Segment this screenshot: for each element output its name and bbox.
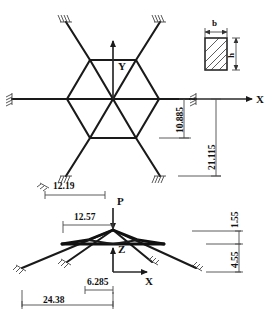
dimension-10885: 10.885 bbox=[159, 99, 191, 138]
plan-support-symbol-top-right bbox=[152, 15, 166, 22]
x-axis-label: X bbox=[256, 93, 264, 105]
elevation-view-group: P Z X 12.57 6.285 24.38 bbox=[13, 195, 243, 309]
dimension-21115-label: 21.115 bbox=[207, 144, 217, 170]
y-axis-label: Y bbox=[118, 60, 126, 72]
dimension-1257: 12.57 bbox=[63, 212, 113, 233]
dimension-155-label: 1.55 bbox=[230, 211, 240, 228]
dimension-1219-label: 12.19 bbox=[53, 181, 75, 191]
dimension-2438-label: 24.38 bbox=[43, 295, 65, 305]
dimension-2438: 24.38 bbox=[22, 290, 113, 309]
z-axis-label: Z bbox=[118, 243, 125, 255]
elevation-members bbox=[22, 230, 196, 268]
plan-support-symbol-bottom-right bbox=[152, 176, 166, 183]
plan-support-symbol-top-left bbox=[58, 15, 72, 22]
plan-view-group: Y X 10.885 21.115 12.19 bbox=[6, 15, 264, 199]
dimension-455: 4.55 bbox=[206, 244, 243, 272]
dimension-b: b bbox=[205, 18, 227, 38]
dimension-b-label: b bbox=[212, 18, 217, 28]
dimension-155: 1.55 bbox=[192, 211, 243, 244]
elevation-x-axis-label: X bbox=[145, 275, 153, 287]
dimension-1219-support-symbol bbox=[37, 183, 49, 191]
dimension-10885-label: 10.885 bbox=[175, 107, 185, 133]
section-hatching bbox=[205, 38, 227, 70]
load-label-P: P bbox=[117, 195, 124, 207]
dimension-455-label: 4.55 bbox=[230, 251, 240, 268]
diagram-canvas: Y X 10.885 21.115 12.19 bbox=[0, 0, 280, 320]
dimension-1257-label: 12.57 bbox=[74, 212, 96, 222]
cross-section-detail-group: b h bbox=[205, 18, 240, 70]
dimension-h: h bbox=[226, 38, 240, 70]
dimension-h-label: h bbox=[226, 53, 236, 58]
dimension-1219: 12.19 bbox=[45, 181, 105, 199]
dimension-6285: 6.285 bbox=[85, 277, 113, 294]
dimension-6285-label: 6.285 bbox=[87, 277, 109, 287]
engineering-diagram: Y X 10.885 21.115 12.19 bbox=[0, 0, 280, 320]
